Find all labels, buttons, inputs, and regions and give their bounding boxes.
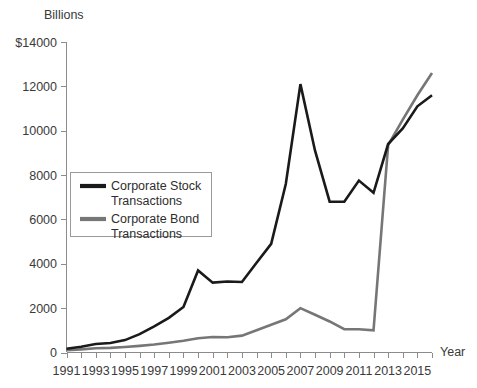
x-tick-label-1991: 1991 [53,364,81,378]
x-tick-label-1995: 1995 [111,364,139,378]
legend-label-corporate-stock-line1: Corporate Stock [111,179,202,193]
chart-legend: Corporate Stock Transactions Corporate B… [71,173,212,242]
x-tick-label-2005: 2005 [257,364,285,378]
y-tick-label-4000: 4000 [29,257,57,271]
chart-container: Billions 020004000600080001000012000$140… [0,0,477,388]
legend-label-corporate-stock-line2: Transactions [111,194,182,208]
y-axis-units-label: Billions [44,8,84,22]
x-axis-ticks: 1991199319951997199920012003200520072009… [53,353,433,379]
y-tick-label-6000: 6000 [29,213,57,227]
y-tick-label-8000: 8000 [29,169,57,183]
x-tick-label-2015: 2015 [403,364,431,378]
x-tick-label-2009: 2009 [316,364,344,378]
x-tick-label-2007: 2007 [287,364,315,378]
y-tick-label-10000: 10000 [22,124,57,138]
x-tick-label-1999: 1999 [170,364,198,378]
x-tick-label-2011: 2011 [345,364,372,378]
y-tick-label-14000: $14000 [15,36,57,50]
y-tick-label-0: 0 [50,346,57,360]
legend-label-corporate-bond-line2: Transactions [111,227,182,241]
x-tick-label-1997: 1997 [140,364,168,378]
x-tick-label-1993: 1993 [82,364,110,378]
y-tick-label-2000: 2000 [29,302,57,316]
x-axis-title: Year [440,345,465,359]
y-tick-label-12000: 12000 [22,80,57,94]
x-tick-label-2013: 2013 [374,364,402,378]
line-chart: Billions 020004000600080001000012000$140… [0,0,477,388]
legend-label-corporate-bond-line1: Corporate Bond [111,212,199,226]
y-axis-ticks: 020004000600080001000012000$14000 [15,36,66,361]
x-tick-label-2001: 2001 [199,364,227,378]
x-tick-label-2003: 2003 [228,364,256,378]
